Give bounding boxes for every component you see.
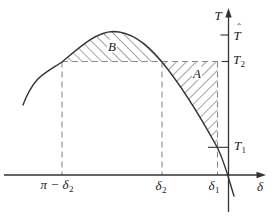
x-axis-arrow	[257, 172, 267, 178]
tick-label-delta2: δ2	[155, 179, 166, 195]
region-b-label: B	[107, 40, 117, 53]
tick-label-t-hat: ˆT	[233, 29, 240, 42]
y-axis-label: T	[214, 9, 221, 22]
region-a-label: A	[192, 67, 202, 80]
tick-label-pi-minus-delta2: π − δ2	[41, 178, 74, 194]
figure-torque-angle-diagram: T δ ˆT T2 T1 π − δ2 δ2 δ1 B A	[0, 0, 278, 217]
tick-label-t1: T1	[234, 139, 246, 155]
x-axis-label: δ	[257, 180, 263, 193]
region-a-area	[162, 62, 218, 148]
circumflex-accent: ˆ	[235, 22, 242, 33]
tick-label-delta1: δ1	[208, 179, 219, 195]
tick-label-t2: T2	[233, 53, 245, 69]
y-axis-arrow	[225, 8, 231, 18]
